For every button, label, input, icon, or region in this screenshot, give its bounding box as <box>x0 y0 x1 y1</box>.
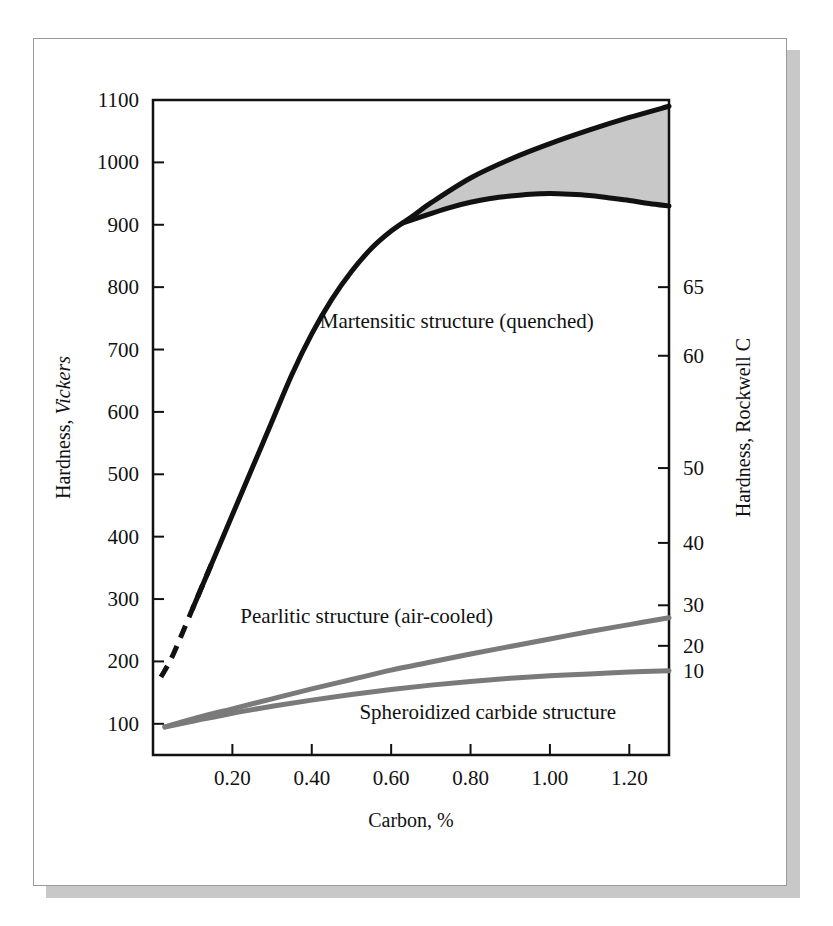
y-tick-label: 500 <box>108 462 140 486</box>
y-tick-label: 100 <box>108 712 140 736</box>
y2-tick-label: 60 <box>683 344 704 368</box>
y-axis-tick-labels: 10020030040050060070080090010001100 <box>97 88 139 736</box>
curve-annotation: Spheroidized carbide structure <box>359 700 616 724</box>
x-axis-title: Carbon, % <box>368 809 454 831</box>
y2-axis-ticks <box>658 287 669 671</box>
figure-page: 0.200.400.600.801.001.20 100200300400500… <box>0 0 833 926</box>
y-tick-label: 400 <box>108 525 140 549</box>
x-tick-label: 1.20 <box>611 766 648 790</box>
hardness-vs-carbon-chart: 0.200.400.600.801.001.20 100200300400500… <box>34 39 786 885</box>
y-tick-label: 300 <box>108 587 140 611</box>
y-tick-label: 900 <box>108 213 140 237</box>
curve-annotation: Pearlitic structure (air-cooled) <box>240 604 493 628</box>
y2-tick-label: 50 <box>683 456 704 480</box>
y-tick-label: 200 <box>108 649 140 673</box>
figure-card: 0.200.400.600.801.001.20 100200300400500… <box>33 38 787 886</box>
x-axis-tick-labels: 0.200.400.600.801.001.20 <box>214 766 648 790</box>
y-axis-title: Hardness, Vickers <box>52 356 74 499</box>
x-tick-label: 0.40 <box>293 766 330 790</box>
y2-axis-tick-labels: 10203040506065 <box>683 275 704 683</box>
x-tick-label: 0.80 <box>452 766 489 790</box>
x-axis-ticks <box>232 744 629 755</box>
y2-tick-label: 65 <box>683 275 704 299</box>
y-tick-label: 800 <box>108 275 140 299</box>
y-axis-ticks <box>153 100 164 724</box>
plot-frame <box>153 100 669 755</box>
y2-axis-title: Hardness, Rockwell C <box>732 338 754 517</box>
x-tick-label: 1.00 <box>532 766 569 790</box>
y2-tick-label: 10 <box>683 659 704 683</box>
martensite-scatter-band <box>403 106 669 223</box>
y-tick-label: 1100 <box>98 88 139 112</box>
data-curves <box>161 106 669 727</box>
curve-annotation: Martensitic structure (quenched) <box>320 309 594 333</box>
x-tick-label: 0.20 <box>214 766 251 790</box>
y-tick-label: 600 <box>108 400 140 424</box>
y2-tick-label: 30 <box>683 593 704 617</box>
y2-tick-label: 20 <box>683 634 704 658</box>
y2-tick-label: 40 <box>683 531 704 555</box>
x-tick-label: 0.60 <box>373 766 410 790</box>
y-tick-label: 700 <box>108 338 140 362</box>
y-tick-label: 1000 <box>97 150 139 174</box>
